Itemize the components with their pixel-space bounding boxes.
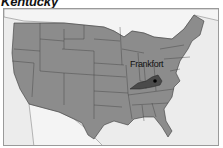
- capital-label: Frankfort: [130, 59, 163, 69]
- us-map-frame: Frankfort: [3, 8, 219, 146]
- capital-marker-dot: [153, 79, 157, 83]
- us-map: [4, 9, 219, 146]
